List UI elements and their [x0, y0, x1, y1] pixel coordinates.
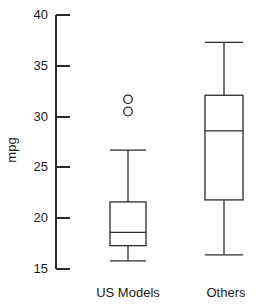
y-tick-label-35: 35: [34, 58, 48, 73]
y-tick-label-15: 15: [34, 261, 48, 276]
boxplot-canvas: 40 35 30 25 20 15 mpg US Model: [0, 0, 257, 307]
category-label-us-models: US Models: [96, 285, 160, 300]
box-us-models: [110, 202, 146, 246]
outlier-point: [124, 107, 133, 116]
box-others: [205, 95, 243, 200]
y-axis-label: mpg: [4, 137, 19, 162]
box-group-others: [205, 42, 243, 254]
y-tick-label-40: 40: [34, 7, 48, 22]
y-tick-label-30: 30: [34, 109, 48, 124]
y-tick-label-25: 25: [34, 159, 48, 174]
boxplot-chart: 40 35 30 25 20 15 mpg US Model: [0, 0, 257, 307]
box-group-us-models: [110, 95, 146, 261]
category-label-others: Others: [206, 285, 246, 300]
outlier-point: [124, 95, 133, 104]
y-tick-label-20: 20: [34, 210, 48, 225]
